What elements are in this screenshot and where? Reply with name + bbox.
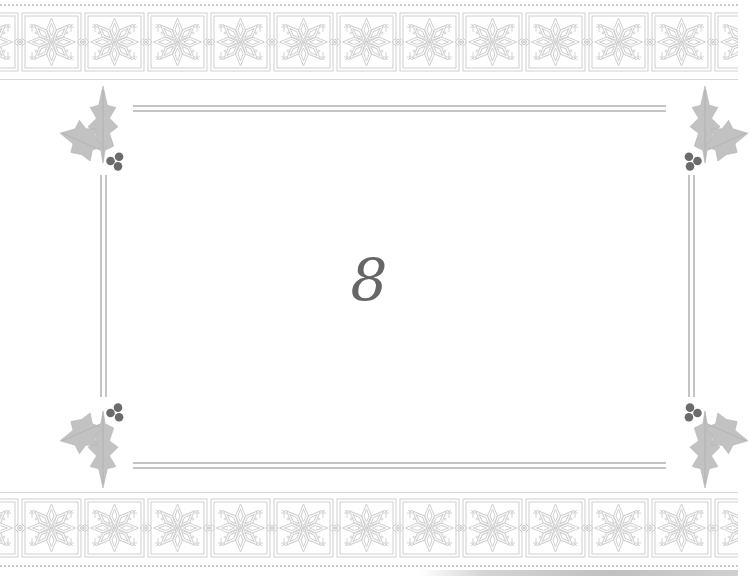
top-snowflake-band [0, 11, 738, 73]
top-separator-line [0, 79, 738, 80]
holly-bottom-left-icon [58, 398, 148, 488]
frame-bottom-line-outer [133, 462, 666, 464]
bottom-separator-line [0, 492, 738, 493]
holly-top-left-icon [58, 86, 148, 176]
center-number: 8 [0, 250, 738, 310]
top-dotted-border [0, 4, 738, 6]
frame-top-line-outer [133, 105, 666, 107]
bottom-shadow-strip [420, 570, 738, 576]
bottom-dotted-border [0, 565, 738, 567]
holly-bottom-right-icon [660, 398, 750, 488]
frame-bottom-line-inner [133, 467, 666, 469]
holly-top-right-icon [660, 86, 750, 176]
frame-top-line-inner [133, 110, 666, 112]
bottom-snowflake-band [0, 497, 738, 559]
